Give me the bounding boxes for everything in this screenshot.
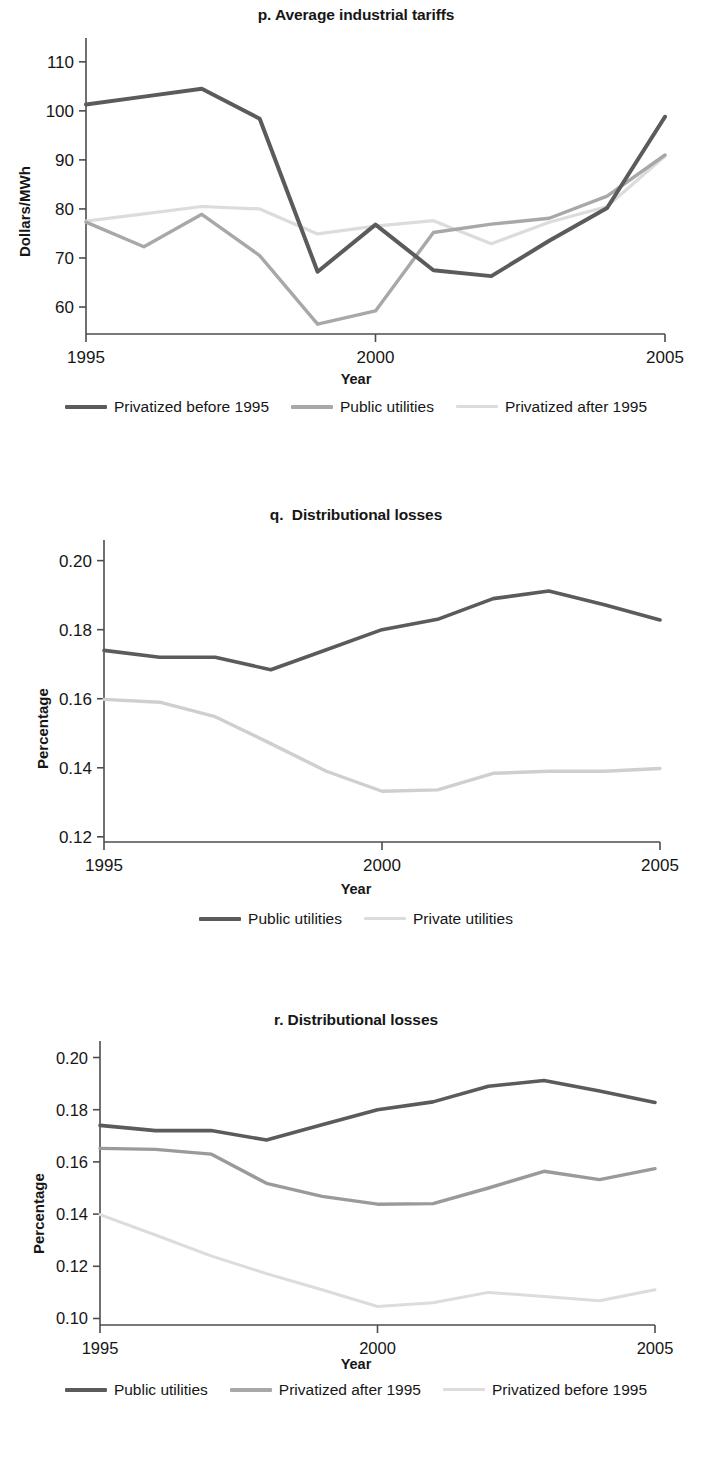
x-tick-label: 2005	[637, 1339, 674, 1355]
y-tick-label: 80	[55, 200, 74, 219]
series-line	[86, 89, 665, 276]
panel-p-ylabel: Dollars/MWh	[16, 166, 33, 257]
legend-swatch-icon	[364, 917, 406, 920]
panel-q: q. Distributional losses 0.120.140.160.1…	[0, 500, 712, 992]
panel-r: r. Distributional losses 0.100.120.140.1…	[0, 1005, 712, 1457]
y-tick-label: 110	[47, 53, 74, 72]
legend-swatch-icon	[456, 405, 498, 408]
y-tick-label: 60	[55, 298, 74, 317]
panel-r-xlabel: Year	[0, 1356, 712, 1372]
legend-swatch-icon	[291, 405, 333, 409]
y-tick-label: 0.14	[56, 1205, 88, 1223]
x-tick-label: 1995	[85, 856, 123, 875]
legend-label: Public utilities	[248, 911, 342, 927]
x-tick-label: 1995	[67, 348, 105, 367]
y-tick-label: 0.10	[56, 1309, 88, 1327]
panel-q-title: q. Distributional losses	[0, 500, 712, 524]
x-tick-label: 1995	[82, 1339, 119, 1355]
series-line	[86, 155, 665, 324]
series-line	[100, 1215, 655, 1307]
y-tick-label: 100	[46, 102, 74, 121]
series-line	[100, 1148, 655, 1204]
series-line	[104, 699, 660, 791]
legend-label: Private utilities	[413, 911, 513, 927]
x-tick-label: 2000	[363, 856, 401, 875]
panel-p-legend: Privatized before 1995Public utilitiesPr…	[0, 399, 712, 415]
panel-r-chart: 0.100.120.140.160.180.20199520002005	[0, 1029, 712, 1354]
y-tick-label: 0.12	[56, 1257, 88, 1275]
x-tick-label: 2005	[641, 856, 679, 875]
legend-label: Privatized after 1995	[505, 399, 647, 415]
y-tick-label: 0.16	[59, 690, 92, 709]
panel-p: p. Average industrial tariffs 6070809010…	[0, 0, 712, 492]
legend-swatch-icon	[199, 917, 241, 921]
y-tick-label: 0.18	[56, 1101, 88, 1119]
panel-q-plot: 0.120.140.160.180.20199520002005 Percent…	[0, 524, 712, 879]
y-tick-label: 0.20	[56, 1049, 88, 1067]
legend-item: Privatized after 1995	[230, 1382, 421, 1398]
y-tick-label: 70	[55, 249, 74, 268]
panel-q-legend: Public utilitiesPrivate utilities	[0, 911, 712, 927]
y-tick-label: 90	[55, 151, 74, 170]
panel-r-title: r. Distributional losses	[0, 1005, 712, 1029]
panel-q-chart: 0.120.140.160.180.20199520002005	[0, 524, 712, 879]
figure-container: p. Average industrial tariffs 6070809010…	[0, 0, 712, 1457]
y-tick-label: 0.12	[59, 828, 92, 847]
panel-r-legend: Public utilitiesPrivatized after 1995Pri…	[0, 1382, 712, 1398]
panel-r-plot: 0.100.120.140.160.180.20199520002005 Per…	[0, 1029, 712, 1354]
x-tick-label: 2000	[359, 1339, 396, 1355]
series-line	[104, 591, 660, 670]
panel-q-xlabel: Year	[0, 881, 712, 897]
panel-q-ylabel: Percentage	[34, 688, 51, 769]
legend-label: Privatized after 1995	[279, 1382, 421, 1398]
panel-p-plot: 60708090100110199520002005 Dollars/MWh	[0, 24, 712, 369]
panel-p-chart: 60708090100110199520002005	[0, 24, 712, 369]
y-tick-label: 0.18	[59, 621, 92, 640]
x-tick-label: 2000	[357, 348, 395, 367]
legend-item: Public utilities	[199, 911, 342, 927]
panel-p-title: p. Average industrial tariffs	[0, 0, 712, 24]
panel-p-xlabel: Year	[0, 371, 712, 387]
legend-item: Privatized before 1995	[443, 1382, 647, 1398]
legend-swatch-icon	[230, 1388, 272, 1392]
legend-swatch-icon	[65, 1388, 107, 1392]
y-tick-label: 0.14	[59, 759, 92, 778]
legend-swatch-icon	[443, 1388, 485, 1391]
y-tick-label: 0.16	[56, 1153, 88, 1171]
legend-swatch-icon	[65, 405, 107, 409]
legend-label: Privatized before 1995	[114, 399, 269, 415]
legend-label: Public utilities	[114, 1382, 208, 1398]
legend-item: Public utilities	[291, 399, 434, 415]
legend-item: Private utilities	[364, 911, 513, 927]
legend-label: Privatized before 1995	[492, 1382, 647, 1398]
legend-item: Public utilities	[65, 1382, 208, 1398]
x-tick-label: 2005	[646, 348, 684, 367]
legend-label: Public utilities	[340, 399, 434, 415]
series-line	[100, 1080, 655, 1139]
panel-r-ylabel: Percentage	[30, 1173, 47, 1254]
legend-item: Privatized after 1995	[456, 399, 647, 415]
y-tick-label: 0.20	[59, 552, 92, 571]
legend-item: Privatized before 1995	[65, 399, 269, 415]
